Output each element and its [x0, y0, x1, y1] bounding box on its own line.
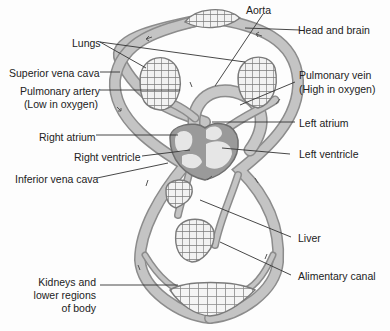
- label-pulmonary-artery-note: (Low in oxygen): [10, 98, 98, 110]
- left-lung: [140, 58, 180, 110]
- label-pulmonary-artery: Pulmonary artery: [20, 85, 98, 97]
- label-left-ventricle: Left ventricle: [299, 148, 359, 160]
- label-left-atrium: Left atrium: [299, 117, 349, 129]
- label-pulmonary-vein-note: (High in oxygen): [299, 83, 375, 95]
- label-superior-vena-cava: Superior vena cava: [9, 67, 99, 79]
- label-lungs: Lungs: [72, 37, 101, 49]
- label-pulmonary-vein: Pulmonary vein: [299, 69, 371, 81]
- label-aorta: Aorta: [246, 4, 271, 16]
- label-right-atrium: Right atrium: [39, 131, 96, 143]
- label-head-and-brain: Head and brain: [298, 24, 370, 36]
- liver-capillaries: [166, 180, 192, 208]
- label-alimentary-canal: Alimentary canal: [298, 270, 376, 282]
- label-kidneys-line2: lower regions: [10, 289, 96, 301]
- label-right-ventricle: Right ventricle: [74, 151, 141, 163]
- label-kidneys-line3: of body: [10, 302, 96, 314]
- gut-capillaries: [176, 219, 215, 262]
- circulation-diagram: Aorta Head and brain Lungs Superior vena…: [0, 0, 390, 331]
- label-inferior-vena-cava: Inferior vena cava: [15, 173, 98, 185]
- label-kidneys: Kidneys and: [10, 276, 96, 288]
- label-liver: Liver: [298, 232, 321, 244]
